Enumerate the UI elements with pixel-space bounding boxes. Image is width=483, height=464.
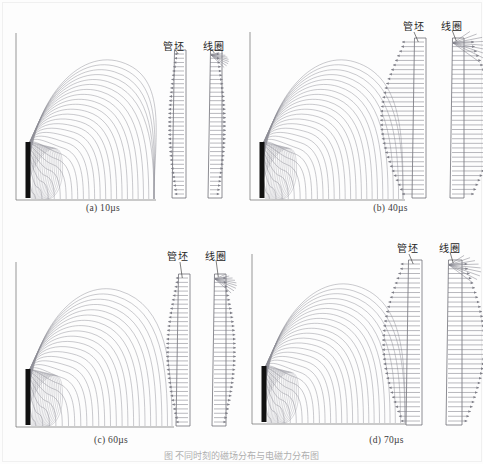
force-arrow-head (172, 299, 175, 302)
panel-d: 管坯 线圈 (d) 70µs (242, 232, 483, 464)
force-arrow-head (393, 286, 396, 289)
flux-line (262, 89, 378, 199)
figure-root: 管坯 线圈 (a) 10µs 管坯 线圈 (b) 40µs 管坯 线圈 (c) … (0, 0, 483, 464)
force-arrow-head (169, 142, 172, 145)
force-arrow-head (383, 329, 386, 332)
force-arrow-head (171, 303, 174, 306)
coil-bar (260, 142, 265, 198)
detail-box-outline (406, 260, 422, 425)
force-arrow-head (382, 339, 385, 342)
coil-bar (262, 366, 267, 422)
panel-c-blank-label: 管坯 (167, 248, 188, 263)
force-arrow-head (396, 277, 399, 280)
detail-box-coil (450, 32, 483, 198)
force-arrow-head (386, 82, 389, 85)
force-arrow-head (226, 408, 229, 411)
force-arrow-head (229, 395, 232, 398)
panel-c-coil-label: 线圈 (205, 248, 226, 263)
force-arrow-head (232, 373, 235, 376)
force-arrow-head (232, 329, 235, 332)
force-arrow-head (168, 108, 171, 111)
force-arrow-head (169, 95, 172, 98)
panel-d-field-svg (242, 232, 483, 437)
force-arrow-head (402, 41, 405, 44)
force-arrow-head (478, 382, 481, 385)
panel-a: 管坯 线圈 (a) 10µs (0, 0, 242, 232)
force-arrow-head (480, 174, 483, 177)
force-arrow-head (231, 316, 234, 319)
flux-line (28, 70, 154, 199)
detail-box-outline (412, 38, 426, 198)
force-arrow-head (465, 420, 468, 423)
force-arrow-head (382, 137, 385, 140)
force-arrow-head (227, 294, 230, 297)
force-arrow-head (394, 174, 397, 177)
force-arrow-head (390, 391, 393, 394)
force-arrow-head (398, 272, 401, 275)
force-arrow-head (168, 129, 171, 132)
flux-line (264, 294, 401, 423)
panel-c: 管坯 线圈 (c) 60µs (0, 232, 242, 464)
flux-line (264, 299, 396, 423)
force-arrow-head (384, 367, 387, 370)
force-arrow-head (470, 405, 473, 408)
force-arrow-head (168, 325, 171, 328)
force-arrow-head (231, 381, 234, 384)
force-arrow-head (223, 142, 226, 145)
force-arrow-head (395, 282, 398, 285)
force-arrow-head (232, 377, 235, 380)
force-arrow-head (391, 291, 394, 294)
force-arrow-head (401, 263, 404, 266)
force-arrow-head (479, 310, 482, 313)
force-arrow-head (401, 420, 404, 423)
force-arrow-head (397, 55, 400, 58)
force-arrow-head (171, 82, 174, 85)
force-arrow-head (223, 146, 226, 149)
force-arrow-head (169, 104, 172, 107)
flux-line (262, 80, 388, 199)
force-arrow-head (385, 372, 388, 375)
flux-line (28, 347, 111, 426)
panel-a-plot (0, 0, 242, 232)
detail-box-outline (450, 38, 464, 198)
panel-a-field-svg (0, 0, 242, 205)
force-arrow-head (222, 91, 225, 94)
force-arrow-head (230, 390, 233, 393)
panel-c-plot (0, 232, 242, 464)
flux-line (28, 132, 95, 199)
force-arrow-head (223, 104, 226, 107)
force-arrow-head (223, 116, 226, 119)
force-arrow-head (175, 285, 178, 288)
force-arrow-head (173, 294, 176, 297)
force-arrow-head (170, 395, 173, 398)
force-arrow-head (472, 286, 475, 289)
force-arrow-head (385, 87, 388, 90)
force-arrow-head (170, 159, 173, 162)
force-arrow-head (169, 99, 172, 102)
force-arrow-head (167, 333, 170, 336)
flux-line (28, 80, 154, 199)
force-arrow-head (478, 306, 481, 309)
force-arrow-head (479, 377, 482, 380)
force-arrow-head (229, 307, 232, 310)
force-arrow-head (223, 108, 226, 111)
force-arrow-head (388, 160, 391, 163)
force-arrow-head (390, 165, 393, 168)
flux-line (262, 75, 394, 199)
force-arrow-head (400, 188, 403, 191)
force-arrow-head (386, 310, 389, 313)
force-arrow-head (388, 382, 391, 385)
force-arrow-head (476, 386, 479, 389)
panel-b-caption: (b) 40µs (270, 203, 483, 213)
flux-line (28, 89, 144, 199)
force-arrow-head (169, 312, 172, 315)
force-arrow-head (223, 112, 226, 115)
force-arrow-head (382, 96, 385, 99)
force-arrow-head (478, 179, 481, 182)
force-arrow-head (169, 146, 172, 149)
detail-box-blank (382, 260, 422, 425)
force-arrow-head (230, 386, 233, 389)
force-arrow-head (168, 121, 171, 124)
force-arrow-head (170, 163, 173, 166)
force-arrow-head (396, 179, 399, 182)
